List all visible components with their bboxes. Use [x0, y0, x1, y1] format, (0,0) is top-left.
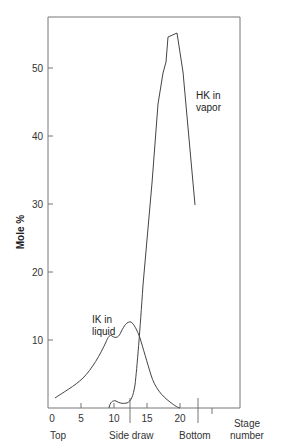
x-tick-label-5: 5: [78, 413, 84, 424]
y-tick-label-30: 30: [32, 199, 44, 210]
y-tick-label-40: 40: [32, 131, 44, 142]
y-tick-label-10: 10: [32, 335, 44, 346]
label-top: Top: [50, 430, 67, 441]
x-axis-label-line1: Stage: [234, 418, 261, 429]
x-tick-label-20: 20: [174, 413, 186, 424]
label-side-draw: Side draw: [109, 430, 154, 441]
chart-canvas: 10 20 30 40 50 Mole % 0 5 10 15 20 Top S…: [0, 0, 281, 447]
y-ticks: [48, 68, 53, 340]
plot-frame: [48, 17, 240, 408]
annotation-hk-line1: HK in: [196, 90, 220, 101]
y-tick-label-50: 50: [32, 63, 44, 74]
label-bottom: Bottom: [179, 430, 211, 441]
annotation-ik-line2: liquid: [92, 326, 115, 337]
annotation-hk-line2: vapor: [196, 102, 222, 113]
x-axis-label-line2: number: [230, 430, 265, 441]
y-axis-label: Mole %: [15, 215, 26, 250]
series-ik-in-liquid: [55, 322, 180, 408]
series-hk-in-vapor: [109, 33, 195, 408]
annotation-ik-line1: IK in: [92, 314, 112, 325]
x-tick-label-15: 15: [141, 413, 153, 424]
x-tick-label-0: 0: [49, 413, 55, 424]
y-tick-label-20: 20: [32, 267, 44, 278]
x-tick-label-10: 10: [108, 413, 120, 424]
